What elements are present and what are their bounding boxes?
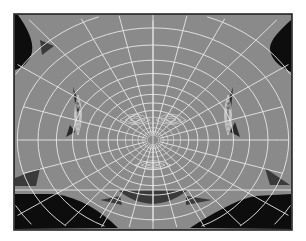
uv-wireframe-figure [0,0,306,241]
